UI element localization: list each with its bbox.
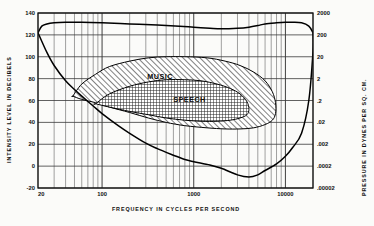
x-tick-label: 1000 bbox=[187, 191, 200, 197]
y-tick-label: 20 bbox=[29, 141, 35, 147]
y-tick-label: 120 bbox=[25, 32, 35, 38]
y2-tick-label: 2000 bbox=[317, 10, 330, 16]
x-tick-label: 100 bbox=[97, 191, 107, 197]
chart-svg: -20020406080100120140 .00002.0002.002.02… bbox=[0, 0, 374, 226]
y-tick-label: 140 bbox=[25, 10, 35, 16]
y-tick-label: 0 bbox=[32, 163, 35, 169]
y2-tick-label: .002 bbox=[317, 141, 328, 147]
x-tick-label: 10000 bbox=[277, 191, 293, 197]
auditory-area-chart: -20020406080100120140 .00002.0002.002.02… bbox=[0, 0, 374, 226]
y2-tick-label: 2 bbox=[317, 76, 320, 82]
y2-tick-label: .02 bbox=[317, 119, 325, 125]
y-axis-left-title: INTENSITY LEVEL IN DECIBELS bbox=[6, 56, 12, 163]
y-tick-label: 60 bbox=[29, 98, 35, 104]
y2-tick-label: .00002 bbox=[317, 185, 335, 191]
x-axis-title: FREQUENCY IN CYCLES PER SECOND bbox=[112, 206, 240, 212]
y-tick-label: -20 bbox=[27, 185, 35, 191]
y-tick-label: 100 bbox=[25, 54, 35, 60]
y-axis-right-title: PRESSURE IN DYNES PER SQ. CM. bbox=[361, 79, 367, 196]
music-label: MUSIC bbox=[147, 72, 173, 81]
x-tick-label: 20 bbox=[38, 191, 44, 197]
y2-tick-label: .0002 bbox=[317, 163, 332, 169]
y2-tick-label: 200 bbox=[317, 32, 327, 38]
y-tick-label: 40 bbox=[29, 119, 35, 125]
speech-label: SPEECH bbox=[173, 95, 206, 104]
y2-tick-label: 20 bbox=[317, 54, 323, 60]
y2-tick-label: .2 bbox=[317, 98, 322, 104]
y-tick-label: 80 bbox=[29, 76, 35, 82]
